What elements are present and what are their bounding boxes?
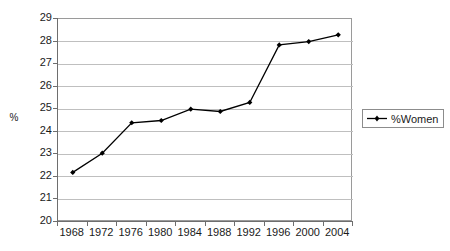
plot-canvas (58, 19, 353, 222)
legend-series-symbol (366, 113, 388, 124)
series-line (73, 35, 339, 173)
legend-entry-label: %Women (391, 113, 438, 125)
data-point-marker (159, 118, 164, 123)
plot-area (57, 18, 352, 221)
data-point-marker (188, 107, 193, 112)
data-point-marker (306, 39, 311, 44)
data-point-marker (247, 100, 252, 105)
legend-marker (375, 116, 380, 122)
x-axis-tick-label: 2004 (317, 226, 357, 238)
line-chart: % 29282726252423222120 19681972197619801… (0, 0, 450, 251)
data-point-marker (277, 42, 282, 47)
legend: %Women (362, 109, 444, 128)
data-point-marker (336, 32, 341, 37)
